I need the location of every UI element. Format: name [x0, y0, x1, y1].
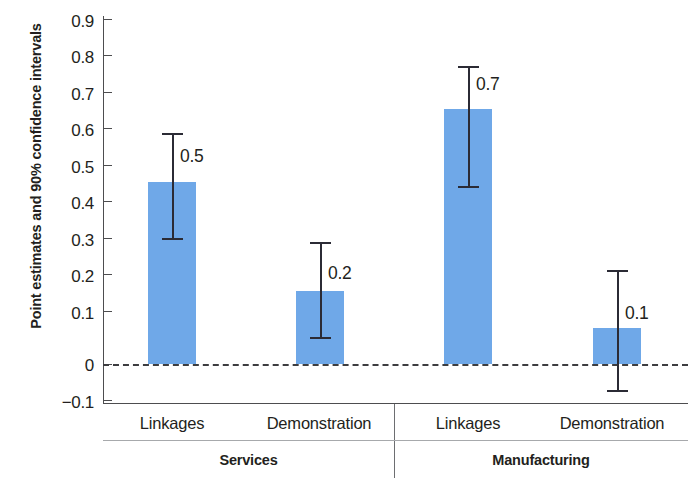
bottom-rule-line [103, 440, 688, 441]
y-tick-mark-0_5 [103, 165, 112, 166]
value-label-manufacturing-demonstration: 0.1 [625, 305, 648, 323]
y-tick-label-0_8: 0.8 [38, 49, 94, 66]
y-tick-mark-0_2 [103, 274, 112, 275]
y-tick-label-0_9: 0.9 [38, 13, 94, 30]
y-tick-label-0_4: 0.4 [38, 195, 94, 212]
y-tick-label-neg0_1: −0.1 [38, 394, 94, 411]
x-category-label-manufacturing-linkages: Linkages [406, 414, 530, 433]
y-tick-mark-0_9 [103, 19, 112, 20]
y-tick-label-0_5: 0.5 [38, 159, 94, 176]
errorbar-cap-upper-manufacturing-linkages [458, 66, 479, 68]
value-label-manufacturing-linkages: 0.7 [476, 76, 499, 94]
errorbar-cap-lower-manufacturing-linkages [458, 186, 479, 188]
errorbar-stem-services-demonstration [320, 242, 322, 337]
bar-chart: Point estimates and 90% confidence inter… [0, 0, 688, 478]
errorbar-cap-lower-services-demonstration [310, 337, 331, 339]
errorbar-cap-upper-services-linkages [162, 133, 183, 135]
y-axis-line [103, 16, 104, 404]
zero-reference-line [103, 364, 688, 366]
y-tick-mark-0_7 [103, 92, 112, 93]
y-tick-label-0_2: 0.2 [38, 268, 94, 285]
x-group-label-services: Services [103, 452, 394, 468]
y-tick-mark-0_8 [103, 55, 112, 56]
y-tick-label-0: 0 [38, 357, 94, 374]
value-label-services-demonstration: 0.2 [328, 265, 351, 283]
y-tick-label-0_1: 0.1 [38, 305, 94, 322]
y-tick-label-0_7: 0.7 [38, 86, 94, 103]
y-axis-tick-labels: 0.9 0.8 0.7 0.6 0.5 0.4 0.3 0.2 0.1 0 −0… [38, 0, 94, 478]
errorbar-stem-manufacturing-demonstration [617, 270, 619, 390]
y-tick-mark-0_3 [103, 238, 112, 239]
errorbar-cap-upper-services-demonstration [310, 242, 331, 244]
errorbar-stem-manufacturing-linkages [468, 66, 470, 186]
x-axis-line [103, 403, 688, 404]
errorbar-cap-lower-services-linkages [162, 238, 183, 240]
x-category-label-services-linkages: Linkages [110, 414, 234, 433]
y-tick-label-0_6: 0.6 [38, 122, 94, 139]
x-category-label-manufacturing-demonstration: Demonstration [536, 414, 688, 433]
errorbar-stem-services-linkages [172, 133, 174, 238]
x-category-label-services-demonstration: Demonstration [244, 414, 394, 433]
y-tick-mark-0_4 [103, 201, 112, 202]
value-label-services-linkages: 0.5 [180, 148, 203, 166]
y-tick-mark-neg0_1 [103, 400, 112, 401]
y-tick-mark-0_1 [103, 311, 112, 312]
y-tick-label-0_3: 0.3 [38, 232, 94, 249]
errorbar-cap-lower-manufacturing-demonstration [607, 390, 628, 392]
errorbar-cap-upper-manufacturing-demonstration [607, 270, 628, 272]
y-tick-mark-0_6 [103, 128, 112, 129]
x-group-label-manufacturing: Manufacturing [394, 452, 688, 468]
